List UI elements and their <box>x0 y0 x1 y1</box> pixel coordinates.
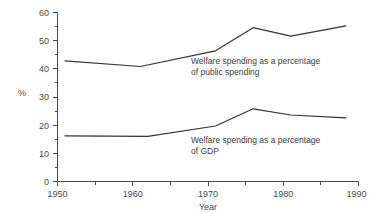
y-tick-label-0: 0 <box>44 177 49 187</box>
axis-lines <box>58 13 359 182</box>
x-axis-title: Year <box>199 202 217 212</box>
x-tick-labels: 1950 1960 1970 1980 1990 <box>47 189 366 199</box>
y-tick-label-30: 30 <box>39 92 49 102</box>
axis-group <box>53 13 359 187</box>
annotation-lower-line2: of GDP <box>191 146 219 156</box>
y-tick-label-40: 40 <box>39 64 49 74</box>
y-tick-label-10: 10 <box>39 149 49 159</box>
series-line-gdp <box>65 109 346 137</box>
x-tick-label-1960: 1960 <box>123 189 143 199</box>
annotation-gdp: Welfare spending as a percentage of GDP <box>191 135 321 156</box>
y-tick-label-60: 60 <box>39 8 49 18</box>
x-tick-label-1950: 1950 <box>47 189 67 199</box>
y-tick-labels: 0 10 20 30 40 50 60 <box>39 8 49 187</box>
x-major-ticks <box>58 182 359 187</box>
annotation-lower-line1: Welfare spending as a percentage <box>191 135 321 145</box>
annotation-public-spending: Welfare spending as a percentage of publ… <box>191 56 321 77</box>
annotation-upper-line1: Welfare spending as a percentage <box>191 56 321 66</box>
line-chart: 0 10 20 30 40 50 60 1950 1960 1970 1980 … <box>0 0 372 213</box>
series-group <box>65 26 346 136</box>
y-tick-label-50: 50 <box>39 36 49 46</box>
x-tick-label-1990: 1990 <box>346 189 366 199</box>
y-tick-label-20: 20 <box>39 121 49 131</box>
x-tick-label-1970: 1970 <box>198 189 218 199</box>
y-major-ticks <box>53 13 58 182</box>
y-axis-title: % <box>18 88 26 98</box>
annotation-upper-line2: of public spending <box>191 67 260 77</box>
chart-container: 0 10 20 30 40 50 60 1950 1960 1970 1980 … <box>0 0 372 213</box>
x-tick-label-1980: 1980 <box>273 189 293 199</box>
